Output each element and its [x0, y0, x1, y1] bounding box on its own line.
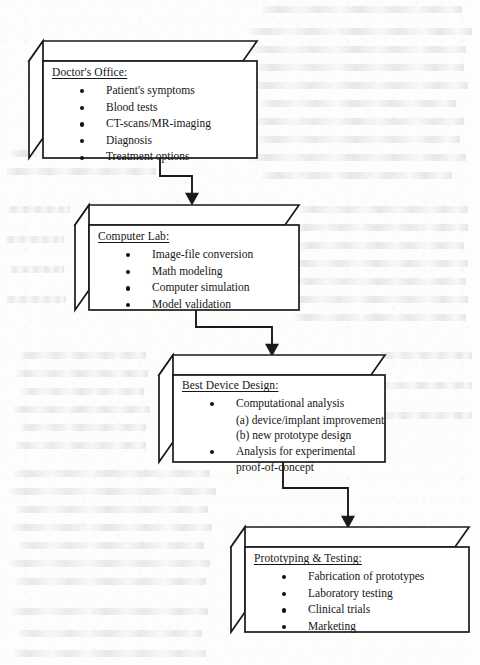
flow-node-prototyping-testing[interactable]: Prototyping & Testing: Fabrication of pr… [228, 524, 470, 634]
list-item: CT-scans/MR-imaging [80, 116, 252, 132]
list-item: Blood tests [80, 100, 252, 116]
list-item: Fabrication of prototypes [282, 569, 466, 585]
node-title: Doctor's Office: [52, 66, 252, 78]
box-top-face [231, 527, 469, 547]
node-item-list: Fabrication of prototypes Laboratory tes… [254, 569, 466, 634]
list-item: Marketing [282, 619, 466, 635]
scanned-page: Doctor's Office: Patient's symptoms Bloo… [0, 0, 480, 665]
box-top-face [159, 355, 385, 375]
list-item-sub: (b) new prototype design [210, 428, 382, 444]
list-item: Math modeling [126, 264, 296, 280]
list-item: Analysis for experimental [210, 444, 382, 460]
flow-node-best-device-design[interactable]: Best Device Design: Computational analys… [156, 352, 386, 464]
list-item: Image-file conversion [126, 247, 296, 263]
node-item-list: Patient's symptoms Blood tests CT-scans/… [52, 83, 252, 165]
box-top-face [75, 205, 299, 225]
list-item: Diagnosis [80, 133, 252, 149]
box-top-face [29, 41, 257, 61]
box-left-face [159, 355, 173, 462]
list-item: Treatment options [80, 149, 252, 165]
node-item-list: Image-file conversion Math modeling Comp… [98, 247, 296, 312]
box-left-face [29, 41, 43, 158]
list-item-continuation: proof-of-concept [210, 460, 382, 476]
list-item: Model validation [126, 297, 296, 313]
list-item: Patient's symptoms [80, 83, 252, 99]
list-item: Computer simulation [126, 280, 296, 296]
flow-node-computer-lab[interactable]: Computer Lab: Image-file conversion Math… [72, 202, 300, 312]
list-item-sub: (a) device/implant improvement [210, 413, 382, 429]
node-item-list: Computational analysis (a) device/implan… [182, 396, 382, 476]
list-item: Computational analysis [210, 396, 382, 412]
box-left-face [231, 527, 245, 632]
list-item: Clinical trials [282, 602, 466, 618]
box-left-face [75, 205, 89, 310]
node-title: Best Device Design: [182, 379, 382, 391]
flow-node-doctors-office[interactable]: Doctor's Office: Patient's symptoms Bloo… [26, 38, 258, 160]
node-title: Computer Lab: [98, 230, 296, 242]
node-title: Prototyping & Testing: [254, 552, 466, 564]
list-item: Laboratory testing [282, 586, 466, 602]
